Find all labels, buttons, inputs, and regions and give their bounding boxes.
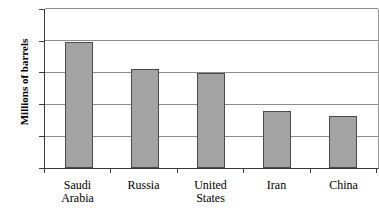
x-label-line1: Saudi: [64, 178, 91, 192]
x-label-russia: Russia: [110, 179, 177, 192]
x-tick-mark-3: [243, 168, 244, 173]
bar-iran: [263, 111, 291, 168]
bars-layer: [44, 9, 377, 168]
x-label-iran: Iran: [243, 179, 310, 192]
bar-saudi-arabia: [65, 42, 93, 168]
bar-chart: Millions of barrels 10 8 6 4 2 0 Saudi A…: [0, 0, 379, 211]
x-tick-mark-5: [376, 168, 377, 173]
x-label-united-states: United States: [177, 179, 244, 205]
bar-china: [329, 116, 357, 169]
x-label-line1: China: [329, 178, 358, 192]
x-label-line1: Iran: [267, 178, 286, 192]
x-label-line2: Arabia: [44, 192, 111, 205]
x-label-line2: States: [177, 192, 244, 205]
y-axis-title: Millions of barrels: [18, 12, 30, 152]
bar-russia: [131, 69, 159, 168]
x-label-line1: United: [194, 178, 227, 192]
x-label-china: China: [310, 179, 377, 192]
x-label-saudi-arabia: Saudi Arabia: [44, 179, 111, 205]
x-tick-mark-0: [44, 168, 45, 173]
bar-united-states: [197, 73, 225, 168]
x-tick-mark-1: [110, 168, 111, 173]
x-label-line1: Russia: [127, 178, 159, 192]
x-tick-mark-4: [310, 168, 311, 173]
x-tick-mark-2: [177, 168, 178, 173]
